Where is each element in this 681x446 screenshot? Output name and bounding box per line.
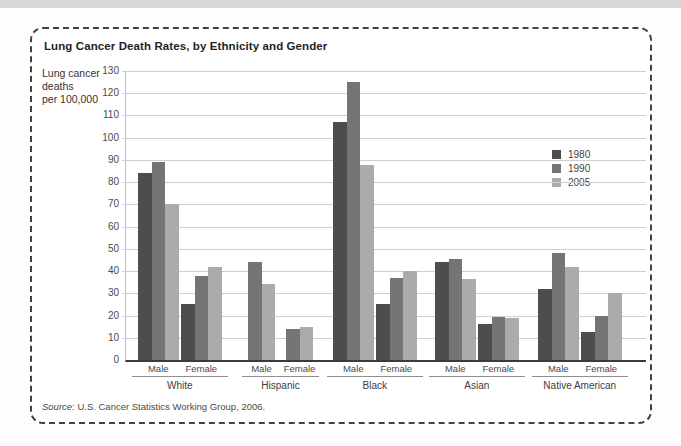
group-underline-asian <box>429 376 525 377</box>
bar-native-american-male-1990 <box>552 253 566 360</box>
legend-swatch-1990 <box>552 164 561 173</box>
plot-area: 198019902005 010203040506070809010011012… <box>125 71 646 362</box>
gridline-120 <box>122 93 646 94</box>
gridline-100 <box>122 138 646 139</box>
legend-row-1990: 1990 <box>552 161 590 175</box>
bar-hispanic-female-1990 <box>286 329 300 360</box>
bar-hispanic-female-2005 <box>300 327 314 360</box>
y-tick-60: 60 <box>86 221 119 232</box>
bar-white-female-1990 <box>195 276 209 360</box>
bar-black-male-1990 <box>347 82 361 360</box>
bar-native-american-female-2005 <box>608 293 622 360</box>
gridline-80 <box>122 182 646 183</box>
legend-swatch-1980 <box>552 150 561 159</box>
bar-white-male-1990 <box>152 162 166 360</box>
axis-label-native-american-female: Female <box>573 363 629 374</box>
bar-asian-male-1990 <box>449 259 463 360</box>
bar-asian-female-1990 <box>492 317 506 360</box>
bar-asian-male-1980 <box>435 262 449 360</box>
y-tick-0: 0 <box>86 354 119 365</box>
bar-asian-female-2005 <box>505 318 519 360</box>
gridline-130 <box>122 71 646 72</box>
dashed-border-figure: Lung Cancer Death Rates, by Ethnicity an… <box>30 27 652 424</box>
legend-row-1980: 1980 <box>552 147 590 161</box>
bar-black-female-2005 <box>403 271 417 360</box>
bar-native-american-female-1980 <box>581 332 595 360</box>
source-word: Source <box>42 401 72 412</box>
bar-black-female-1980 <box>376 304 390 360</box>
y-tick-130: 130 <box>86 65 119 76</box>
bar-white-female-1980 <box>181 304 195 360</box>
scan-artifact-band <box>0 0 681 8</box>
bar-asian-female-1980 <box>478 324 492 360</box>
y-tick-50: 50 <box>86 243 119 254</box>
gridline-110 <box>122 115 646 116</box>
bar-hispanic-male-2005 <box>262 284 276 360</box>
group-label-native-american: Native American <box>515 380 645 391</box>
y-tick-30: 30 <box>86 287 119 298</box>
y-tick-40: 40 <box>86 265 119 276</box>
gridline-90 <box>122 160 646 161</box>
y-tick-70: 70 <box>86 198 119 209</box>
axis-label-asian-female: Female <box>470 363 526 374</box>
bar-black-female-1990 <box>390 278 404 360</box>
legend-label-1990: 1990 <box>568 163 590 174</box>
y-tick-10: 10 <box>86 332 119 343</box>
y-tick-100: 100 <box>86 132 119 143</box>
source-note: Source: U.S. Cancer Statistics Working G… <box>42 401 265 412</box>
bar-native-american-female-1990 <box>595 316 609 360</box>
axis-label-black-female: Female <box>368 363 424 374</box>
bar-white-male-1980 <box>138 173 152 360</box>
group-underline-white <box>132 376 228 377</box>
bar-native-american-male-2005 <box>565 267 579 360</box>
group-underline-hispanic <box>242 376 319 377</box>
y-tick-80: 80 <box>86 176 119 187</box>
bar-white-male-2005 <box>165 204 179 360</box>
y-tick-110: 110 <box>86 109 119 120</box>
gridline-50 <box>122 249 646 250</box>
bar-black-male-2005 <box>360 165 374 360</box>
gridline-60 <box>122 227 646 228</box>
legend-label-1980: 1980 <box>568 149 590 160</box>
group-underline-black <box>327 376 423 377</box>
group-underline-native-american <box>532 376 628 377</box>
y-tick-120: 120 <box>86 87 119 98</box>
gridline-70 <box>122 204 646 205</box>
chart-title: Lung Cancer Death Rates, by Ethnicity an… <box>44 40 327 52</box>
bar-asian-male-2005 <box>462 279 476 360</box>
y-tick-90: 90 <box>86 154 119 165</box>
source-text: : U.S. Cancer Statistics Working Group, … <box>72 401 265 412</box>
axis-label-white-female: Female <box>173 363 229 374</box>
axis-label-hispanic-female: Female <box>272 363 328 374</box>
bar-hispanic-male-1990 <box>248 262 262 360</box>
bar-native-american-male-1980 <box>538 289 552 360</box>
bar-black-male-1980 <box>333 122 347 360</box>
bar-white-female-2005 <box>208 267 222 360</box>
y-tick-20: 20 <box>86 310 119 321</box>
